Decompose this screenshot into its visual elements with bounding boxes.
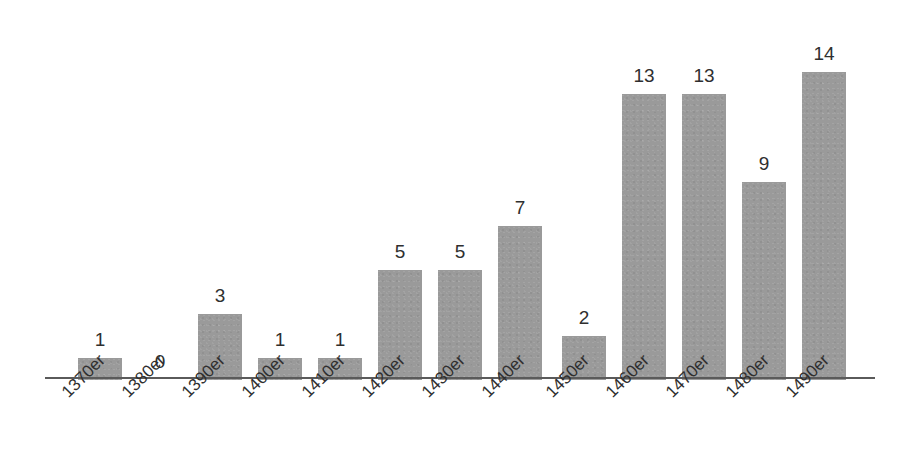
bar-value-label: 13 [682,66,726,85]
bar-value-label: 3 [198,286,242,305]
x-axis-labels: 1370er 1380er 1390er 1400er 1410er 1420e… [0,380,913,467]
bar-group[interactable]: 5 [438,2,482,380]
bar-group[interactable]: 9 [742,2,786,380]
bar-group[interactable]: 13 [682,2,726,380]
bar-value-label: 5 [378,242,422,261]
bar-group[interactable]: 14 [802,2,846,380]
bar-value-label: 1 [258,330,302,349]
bar-rect[interactable] [622,94,666,380]
bar-group[interactable]: 5 [378,2,422,380]
bar-value-label: 9 [742,154,786,173]
bar-group[interactable]: 0 [138,2,182,380]
bar-value-label: 7 [498,198,542,217]
bar-group[interactable]: 1 [78,2,122,380]
bar-group[interactable]: 2 [562,2,606,380]
bar-rect[interactable] [802,72,846,380]
bar-rect[interactable] [682,94,726,380]
bar-chart: 1 0 3 1 1 5 5 7 [0,0,913,467]
bar-group[interactable]: 1 [318,2,362,380]
bar-group[interactable]: 1 [258,2,302,380]
bar-group[interactable]: 13 [622,2,666,380]
bar-group[interactable]: 3 [198,2,242,380]
bar-value-label: 1 [78,330,122,349]
plot-area: 1 0 3 1 1 5 5 7 [0,0,913,380]
bar-value-label: 13 [622,66,666,85]
bar-rect[interactable] [742,182,786,380]
bar-value-label: 14 [802,44,846,63]
bar-value-label: 1 [318,330,362,349]
bar-value-label: 2 [562,308,606,327]
bar-group[interactable]: 7 [498,2,542,380]
bar-value-label: 5 [438,242,482,261]
